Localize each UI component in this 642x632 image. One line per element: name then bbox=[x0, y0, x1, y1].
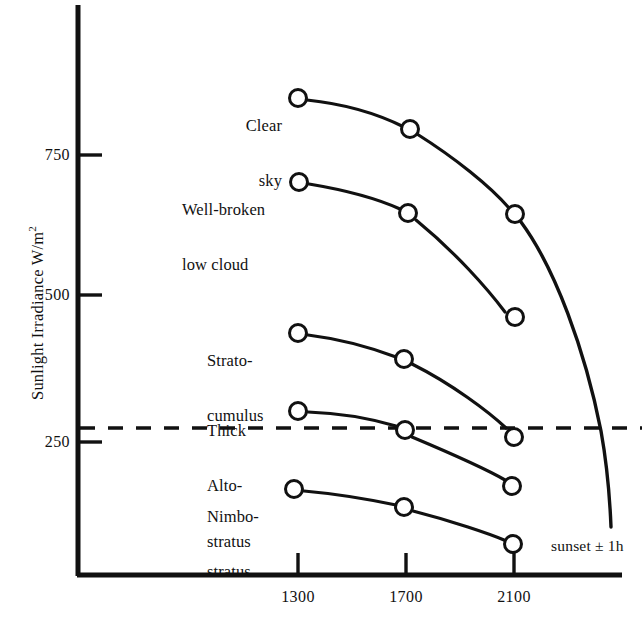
data-point bbox=[507, 309, 524, 326]
data-point bbox=[506, 429, 523, 446]
data-point bbox=[507, 206, 524, 223]
series-label-nimbostratus: Nimbo- stratus bbox=[207, 471, 327, 619]
y-tick-label-500: 500 bbox=[14, 286, 70, 304]
y-axis-title-exponent: 2 bbox=[26, 226, 38, 232]
y-tick-label-250: 250 bbox=[14, 433, 70, 451]
data-point bbox=[396, 351, 413, 368]
x-tick-label-2100: 2100 bbox=[474, 588, 554, 606]
data-point bbox=[505, 536, 522, 553]
series-well-broken-low-cloud-curve bbox=[309, 184, 400, 209]
x-tick-label-1700: 1700 bbox=[366, 588, 446, 606]
sunset-line-label: sunset ± 1h bbox=[551, 537, 624, 555]
series-clear-sky-curve bbox=[417, 134, 509, 208]
series-well-broken-low-cloud-curve bbox=[416, 220, 505, 312]
series-label-well-broken-low-cloud: Well-broken low cloud bbox=[182, 164, 322, 312]
series-well-broken-low-cloud bbox=[291, 174, 524, 326]
series-label-nimbostratus-line2: stratus bbox=[207, 563, 327, 581]
data-point bbox=[290, 90, 307, 107]
data-point bbox=[396, 499, 413, 516]
y-axis-title-text: Sunlight Irradiance W/m bbox=[28, 232, 47, 400]
data-point bbox=[402, 121, 419, 138]
series-clear-sky-curve bbox=[307, 100, 404, 127]
x-axis-ticks bbox=[298, 553, 514, 573]
y-tick-label-750: 750 bbox=[14, 146, 70, 164]
series-stratocumulus-curve bbox=[412, 364, 506, 428]
series-label-stratocumulus-line1: Strato- bbox=[207, 352, 327, 370]
series-thick-altostratus-curve bbox=[412, 437, 505, 480]
series-clear-sky-curve-sunset bbox=[521, 222, 611, 527]
series-label-well-broken-line1: Well-broken bbox=[182, 201, 322, 219]
chart-figure: Sunlight Irradiance W/m2 750 500 250 130… bbox=[0, 0, 642, 632]
y-axis-ticks bbox=[80, 155, 102, 442]
series-nimbostratus-curve bbox=[413, 511, 504, 540]
series-label-well-broken-line2: low cloud bbox=[182, 256, 322, 274]
y-axis-title: Sunlight Irradiance W/m2 bbox=[26, 226, 48, 400]
data-point bbox=[504, 478, 521, 495]
data-point bbox=[400, 205, 417, 222]
series-label-clear-sky-line1: Clear bbox=[150, 117, 282, 135]
data-point bbox=[397, 422, 414, 439]
series-clear-sky bbox=[290, 90, 612, 528]
series-label-nimbostratus-line1: Nimbo- bbox=[207, 508, 327, 526]
series-label-altostratus-line1: Thick bbox=[207, 422, 327, 440]
